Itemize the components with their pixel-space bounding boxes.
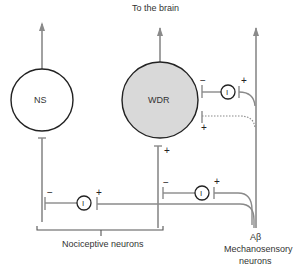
wdr-label: WDR — [148, 95, 170, 106]
interneuron-label: I — [226, 87, 228, 98]
gate-control-diagram: To the brain NS WDR I I I − + + + − + − … — [0, 0, 295, 272]
plus-sign: + — [214, 177, 220, 187]
minus-sign: − — [200, 76, 206, 86]
nociceptive-label: Nociceptive neurons — [62, 239, 144, 250]
abeta-label: Aβ — [250, 232, 261, 243]
minus-sign: − — [47, 188, 53, 198]
arrow-up-icon — [157, 27, 163, 36]
ns-label: NS — [34, 95, 47, 106]
interneuron-label: I — [200, 188, 202, 199]
plus-sign: + — [201, 123, 207, 133]
interneuron-label: I — [82, 198, 84, 209]
minus-sign: − — [163, 178, 169, 188]
neurons-label: neurons — [239, 256, 272, 267]
to-brain-label: To the brain — [132, 3, 179, 14]
plus-sign: + — [96, 188, 102, 198]
plus-sign: + — [164, 146, 170, 156]
arrow-up-icon — [253, 27, 259, 36]
mechanosensory-label: Mechanosensory — [224, 244, 293, 255]
arrow-up-icon — [39, 22, 45, 31]
plus-sign: + — [241, 76, 247, 86]
